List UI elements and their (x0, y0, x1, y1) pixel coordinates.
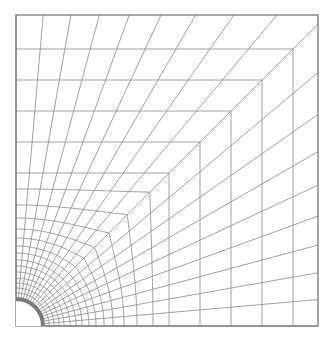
mesh-spoke-line (42, 185, 318, 314)
mesh-spoke-line (37, 24, 318, 305)
mesh-spoke-line (21, 15, 71, 297)
mesh-diagram (0, 0, 335, 344)
mesh-canvas (0, 0, 335, 344)
mesh-spoke-line (45, 273, 318, 321)
mesh-spoke-line (24, 15, 100, 298)
mesh-spoke-line (28, 15, 161, 300)
mesh-spoke-line (33, 15, 234, 302)
domain-border (16, 15, 318, 326)
mesh-spokes (16, 15, 318, 326)
